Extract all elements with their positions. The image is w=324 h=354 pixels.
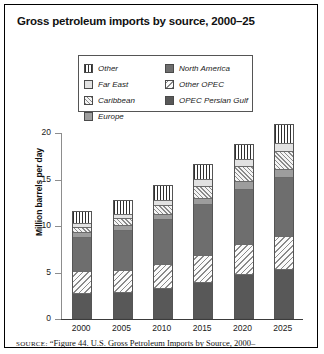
bar-segment-2020-persiangulf: [235, 275, 253, 318]
y-axis-title: Million barrels per day: [34, 132, 44, 252]
legend-swatch-persiangulf: [165, 96, 174, 105]
bar-segment-2025-caribbean: [275, 152, 293, 170]
bar-2020: [234, 144, 254, 319]
y-tick-label-5: 5: [11, 267, 51, 277]
legend-swatch-northamerica: [165, 64, 174, 73]
bar-segment-2000-northamerica: [73, 238, 91, 271]
legend-item-caribbean: Caribbean: [84, 92, 135, 108]
legend-item-otheropec: Other OPEC: [165, 76, 248, 92]
bar-2025: [274, 124, 294, 319]
bar-segment-2015-other: [194, 165, 212, 181]
bar-segment-2005-persiangulf: [114, 293, 132, 318]
y-tick-15: [55, 180, 61, 181]
bar-segment-2020-northamerica: [235, 190, 253, 246]
y-tick-label-20: 20: [11, 127, 51, 137]
bar-segment-2010-otheropec: [154, 265, 172, 289]
bar-segment-2020-europe: [235, 182, 253, 189]
legend-item-northamerica: North America: [165, 60, 248, 76]
x-tick-label-2025: 2025: [258, 323, 308, 333]
y-tick-10: [55, 226, 61, 227]
bar-segment-2025-northamerica: [275, 178, 293, 238]
bar-segment-2005-northamerica: [114, 231, 132, 271]
y-tick-20: [55, 133, 61, 134]
y-tick-label-10: 10: [11, 220, 51, 230]
plot-area: [61, 133, 303, 319]
legend-label-otheropec: Other OPEC: [179, 80, 224, 89]
legend-swatch-other: [84, 64, 93, 73]
y-axis-line: [61, 133, 62, 320]
legend-label-fareast: Far East: [98, 80, 128, 89]
legend-swatch-europe: [84, 112, 93, 121]
bar-segment-2025-otheropec: [275, 237, 293, 270]
bar-segment-2025-persiangulf: [275, 270, 293, 318]
legend-item-fareast: Far East: [84, 76, 135, 92]
chart-legend: OtherFar EastCaribbeanEuropeNorth Americ…: [78, 55, 253, 112]
bar-segment-2000-other: [73, 212, 91, 224]
bar-segment-2010-caribbean: [154, 206, 172, 214]
y-tick-label-15: 15: [11, 174, 51, 184]
source-note: SOURCE: “Figure 44. U.S. Gross Petroleum…: [16, 338, 312, 350]
legend-swatch-fareast: [84, 80, 93, 89]
x-axis-line: [61, 319, 303, 320]
bar-segment-2010-persiangulf: [154, 289, 172, 318]
bar-2010: [153, 185, 173, 319]
bar-segment-2010-northamerica: [154, 220, 172, 265]
bar-segment-2020-other: [235, 145, 253, 160]
bar-segment-2020-fareast: [235, 160, 253, 167]
legend-item-other: Other: [84, 60, 135, 76]
bar-segment-2025-fareast: [275, 144, 293, 152]
bar-segment-2000-persiangulf: [73, 294, 91, 318]
bar-segment-2000-otheropec: [73, 272, 91, 294]
chart-title: Gross petroleum imports by source, 2000–…: [17, 15, 297, 27]
legend-label-europe: Europe: [98, 112, 124, 121]
legend-swatch-caribbean: [84, 96, 93, 105]
bar-segment-2020-caribbean: [235, 167, 253, 182]
bar-segment-2005-otheropec: [114, 271, 132, 293]
bar-2005: [113, 200, 133, 319]
legend-label-other: Other: [98, 64, 118, 73]
bar-segment-2015-persiangulf: [194, 283, 212, 318]
source-text: “Figure 44. U.S. Gross Petroleum Imports…: [48, 338, 256, 348]
legend-label-persiangulf: OPEC Persian Gulf: [179, 96, 248, 105]
y-tick-0: [55, 319, 61, 320]
bar-segment-2025-europe: [275, 170, 293, 177]
legend-swatch-otheropec: [165, 80, 174, 89]
figure-frame: Gross petroleum imports by source, 2000–…: [4, 4, 318, 348]
bar-segment-2005-other: [114, 201, 132, 215]
bar-2000: [72, 211, 92, 319]
legend-label-caribbean: Caribbean: [98, 96, 135, 105]
legend-item-persiangulf: OPEC Persian Gulf: [165, 92, 248, 108]
y-tick-label-0: 0: [11, 313, 51, 323]
source-label: SOURCE:: [16, 340, 48, 348]
bar-segment-2010-other: [154, 186, 172, 201]
bar-segment-2015-otheropec: [194, 256, 212, 283]
bar-segment-2020-otheropec: [235, 245, 253, 275]
bar-segment-2025-other: [275, 125, 293, 145]
bar-segment-2015-northamerica: [194, 205, 212, 255]
bar-2015: [193, 164, 213, 319]
y-tick-5: [55, 273, 61, 274]
bar-segment-2015-caribbean: [194, 187, 212, 199]
legend-label-northamerica: North America: [179, 64, 230, 73]
legend-item-europe: Europe: [84, 108, 135, 124]
